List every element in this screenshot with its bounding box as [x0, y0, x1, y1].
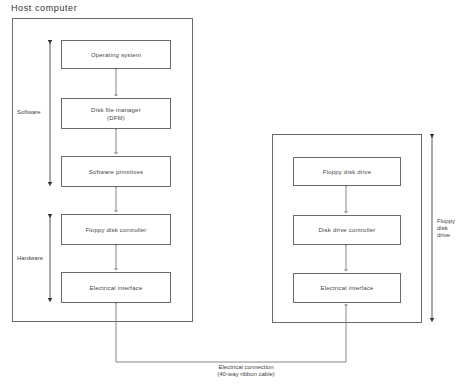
floppy-disk-controller-box: Floppy disk controller: [61, 214, 171, 245]
operating-system-label: Operating system: [91, 51, 141, 59]
hardware-group-label: Hardware: [17, 255, 43, 262]
software-primitives-label: Software primitives: [89, 168, 143, 176]
connection-caption: Electrical connection (40-way ribbon cab…: [196, 364, 296, 378]
host-electrical-interface-box: Electrical interface: [61, 272, 171, 303]
operating-system-box: Operating system: [61, 40, 171, 69]
connection-caption-line1: Electrical connection: [196, 364, 296, 371]
disk-file-manager-label: Disk file manager: [91, 106, 141, 114]
floppy-disk-drive-label: Floppy disk drive: [323, 168, 371, 176]
disk-drive-controller-box: Disk drive controller: [293, 215, 401, 245]
software-primitives-box: Software primitives: [61, 156, 171, 187]
software-group-label: Software: [17, 109, 41, 116]
floppy-label-line3: drive: [437, 232, 455, 239]
disk-drive-controller-label: Disk drive controller: [319, 226, 376, 234]
floppy-disk-controller-label: Floppy disk controller: [85, 226, 146, 234]
disk-file-manager-sublabel: (DFM): [107, 114, 125, 122]
connection-caption-line2: (40-way ribbon cable): [196, 371, 296, 378]
floppy-label-line2: disk: [437, 225, 455, 232]
drive-electrical-interface-label: Electrical interface: [320, 284, 373, 292]
disk-file-manager-box: Disk file manager (DFM): [61, 98, 171, 129]
drive-electrical-interface-box: Electrical interface: [293, 273, 401, 303]
host-electrical-interface-label: Electrical interface: [89, 284, 142, 292]
floppy-label-line1: Floppy: [437, 218, 455, 225]
floppy-disk-drive-group-label: Floppy disk drive: [437, 218, 455, 239]
floppy-disk-drive-box: Floppy disk drive: [293, 157, 401, 186]
